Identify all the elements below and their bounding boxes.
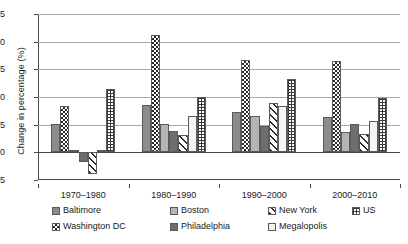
bar-boston-1990–2000 xyxy=(250,116,259,153)
x-axis-line xyxy=(38,179,400,180)
bar-us-1980–1990 xyxy=(197,97,206,152)
bar-boston-1970–1980 xyxy=(69,150,78,152)
legend-label: Philadelphia xyxy=(181,222,230,231)
legend-label: New York xyxy=(279,206,317,215)
legend-item-megalopolis: Megalopolis xyxy=(268,222,327,231)
y-tick-label: 10 xyxy=(0,93,5,102)
gridline xyxy=(38,14,400,15)
legend-item-baltimore: Baltimore xyxy=(52,206,101,215)
legend-swatch-icon xyxy=(352,207,360,215)
bar-chart: Change in percentage (%) -50510152025 19… xyxy=(0,0,408,244)
x-tick-label: 2000–2010 xyxy=(332,190,377,200)
legend-swatch-icon xyxy=(52,207,60,215)
bar-philadelphia-1970–1980 xyxy=(79,152,88,161)
bar-us-1990–2000 xyxy=(287,79,296,152)
legend-item-us: US xyxy=(352,206,376,215)
legend-item-boston: Boston xyxy=(170,206,209,215)
legend-item-washington-dc: Washington DC xyxy=(52,222,126,231)
bar-new-york-2000–2010 xyxy=(359,134,368,152)
bar-new-york-1990–2000 xyxy=(269,103,278,152)
bar-us-2000–2010 xyxy=(378,98,387,153)
y-axis-title: Change in percentage (%) xyxy=(16,26,26,176)
x-tick-mark xyxy=(400,184,401,188)
bar-washington-dc-1990–2000 xyxy=(241,60,250,152)
legend-row-2: Washington DCPhiladelphiaMegalopolis xyxy=(52,222,402,237)
bar-baltimore-1990–2000 xyxy=(232,112,241,152)
y-tick-label: -5 xyxy=(0,176,5,185)
y-tick-label: 0 xyxy=(0,148,5,157)
bar-baltimore-1970–1980 xyxy=(51,124,60,153)
y-tick-mark xyxy=(34,97,38,98)
bar-megalopolis-1970–1980 xyxy=(97,150,106,152)
bar-megalopolis-2000–2010 xyxy=(369,121,378,153)
y-tick-mark xyxy=(34,152,38,153)
y-tick-mark xyxy=(34,14,38,15)
bar-washington-dc-2000–2010 xyxy=(332,61,341,152)
bar-philadelphia-1990–2000 xyxy=(260,126,269,152)
legend-swatch-icon xyxy=(268,223,276,231)
legend-swatch-icon xyxy=(268,207,276,215)
y-tick-label: 5 xyxy=(0,120,5,129)
legend-swatch-icon xyxy=(52,223,60,231)
x-tick-mark xyxy=(38,184,39,188)
y-tick-mark xyxy=(34,125,38,126)
legend-label: Boston xyxy=(181,206,209,215)
legend-label: Washington DC xyxy=(63,222,126,231)
bar-washington-dc-1970–1980 xyxy=(60,106,69,152)
bar-megalopolis-1980–1990 xyxy=(188,116,197,153)
y-tick-mark xyxy=(34,42,38,43)
y-tick-label: 25 xyxy=(0,10,5,19)
gridline xyxy=(38,69,400,70)
bar-us-1970–1980 xyxy=(106,89,115,152)
plot-area xyxy=(38,14,400,180)
y-tick-label: 20 xyxy=(0,37,5,46)
x-tick-mark xyxy=(219,184,220,188)
y-tick-mark xyxy=(34,180,38,181)
bar-boston-1980–1990 xyxy=(160,124,169,152)
legend-label: Baltimore xyxy=(63,206,101,215)
y-tick-label: 15 xyxy=(0,65,5,74)
x-tick-mark xyxy=(310,184,311,188)
bar-megalopolis-1990–2000 xyxy=(278,106,287,152)
bar-new-york-1980–1990 xyxy=(178,135,187,152)
bar-philadelphia-1980–1990 xyxy=(169,131,178,153)
x-tick-label: 1970–1980 xyxy=(61,190,106,200)
y-tick-mark xyxy=(34,69,38,70)
bar-baltimore-1980–1990 xyxy=(142,105,151,153)
bar-washington-dc-1980–1990 xyxy=(151,35,160,152)
x-tick-mark xyxy=(129,184,130,188)
gridline xyxy=(38,42,400,43)
legend-swatch-icon xyxy=(170,223,178,231)
bar-new-york-1970–1980 xyxy=(88,152,97,174)
bar-philadelphia-2000–2010 xyxy=(350,124,359,153)
legend-swatch-icon xyxy=(170,207,178,215)
x-axis-labels: 1970–19801980–19901990–20002000–2010 xyxy=(38,184,400,198)
x-tick-label: 1980–1990 xyxy=(151,190,196,200)
bar-boston-2000–2010 xyxy=(341,132,350,152)
legend-item-philadelphia: Philadelphia xyxy=(170,222,230,231)
legend-label: US xyxy=(363,206,376,215)
legend-item-new-york: New York xyxy=(268,206,317,215)
gridline xyxy=(38,125,400,126)
legend-label: Megalopolis xyxy=(279,222,327,231)
chart-legend: BaltimoreBostonNew YorkUS Washington DCP… xyxy=(52,206,402,242)
bar-baltimore-2000–2010 xyxy=(323,117,332,152)
gridline xyxy=(38,97,400,98)
legend-row-1: BaltimoreBostonNew YorkUS xyxy=(52,206,402,221)
x-tick-label: 1990–2000 xyxy=(242,190,287,200)
